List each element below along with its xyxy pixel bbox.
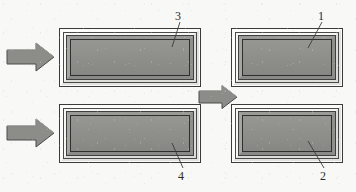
panel-top-left: [59, 28, 201, 87]
arrow-right-icon: [6, 117, 55, 149]
panel-top-right: [231, 28, 343, 87]
callout-label-3: 3: [175, 10, 181, 22]
callout-label-2: 2: [320, 170, 326, 182]
callout-label-4: 4: [178, 170, 184, 182]
callout-label-1: 1: [318, 10, 324, 22]
panel-bottom-left: [59, 104, 201, 163]
panel-surface: [70, 39, 190, 76]
arrow-right-icon: [6, 41, 55, 73]
panel-surface: [242, 115, 332, 152]
figure-canvas: 3 1 4 2: [0, 0, 356, 192]
panel-surface: [242, 39, 332, 76]
arrow-right-icon: [198, 84, 238, 110]
panel-surface: [70, 115, 190, 152]
panel-bottom-right: [231, 104, 343, 163]
